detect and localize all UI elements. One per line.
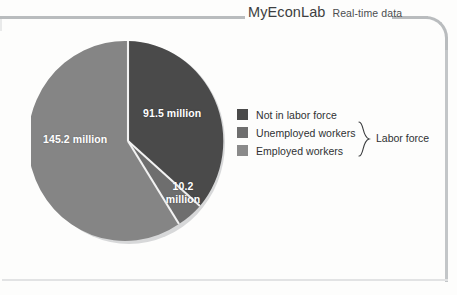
chart-legend: Not in labor force Unemployed workers Em… <box>237 106 367 160</box>
legend-item-unemployed-workers: Unemployed workers <box>237 124 367 141</box>
frame-corner <box>408 16 448 56</box>
legend-label: Employed workers <box>256 145 343 157</box>
brand-title: MyEconLab <box>248 4 325 20</box>
frame-right-rule <box>445 50 448 282</box>
header-tagline: Real-time data <box>332 7 402 19</box>
frame-bottom-rule <box>2 279 448 281</box>
panel-header: MyEconLab Real-time data <box>248 4 402 20</box>
legend-swatch-icon <box>237 109 248 120</box>
curly-brace-icon <box>358 121 371 157</box>
legend-group-label: Labor force <box>376 132 429 144</box>
legend-item-not-in-labor-force: Not in labor force <box>237 106 367 123</box>
legend-label: Not in labor force <box>256 109 337 121</box>
frame-top-left-rule <box>0 16 245 19</box>
pie-label-not-in-labor-force: 91.5 million <box>143 107 201 119</box>
legend-label: Unemployed workers <box>256 127 356 139</box>
legend-item-employed-workers: Employed workers <box>237 142 367 159</box>
legend-swatch-icon <box>237 127 248 138</box>
frame-left-edge <box>0 19 2 31</box>
pie-label-unemployed-workers: 10.2 million <box>160 180 206 205</box>
legend-swatch-icon <box>237 145 248 156</box>
pie-label-employed-workers: 145.2 million <box>43 133 107 145</box>
